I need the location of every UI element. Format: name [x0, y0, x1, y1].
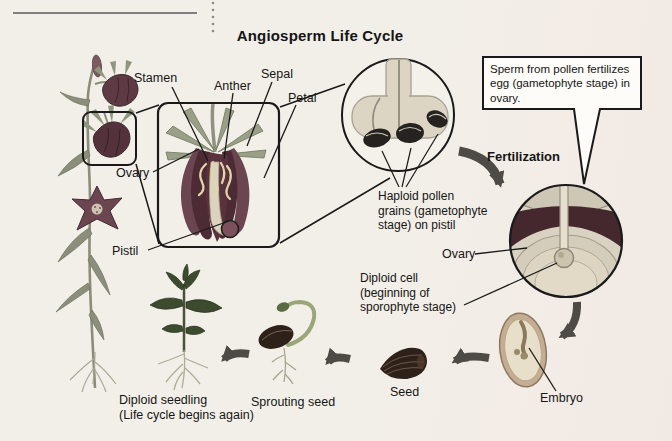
arrow-seed-to-sprout [328, 358, 350, 362]
label-sepal: Sepal [261, 67, 293, 82]
seedling-line-1: Diploid seedling [119, 393, 254, 408]
callout-line-2: egg (gametophyte stage) in [490, 76, 636, 90]
pollen-tube-descending [560, 184, 568, 254]
label-diploid-seedling: Diploid seedling (Life cycle begins agai… [119, 393, 254, 424]
plant-flower-open [72, 186, 122, 230]
plant-illustration [56, 55, 138, 392]
arrow-sprout-to-seedling [224, 353, 249, 359]
label-pistil: Pistil [112, 244, 138, 259]
seedling-illustration [150, 264, 222, 390]
diploid-cell [555, 249, 574, 268]
callout-line-3: ovary. [490, 91, 636, 105]
haploid-line-1: Haploid pollen [378, 189, 487, 204]
diploid-cell-line-3: sporophyte stage) [360, 300, 456, 315]
embryo-illustration [495, 310, 551, 390]
pollen-stigma-circle [342, 59, 454, 171]
arrow-embryo-to-seed [455, 357, 489, 361]
fertilization-circle [505, 183, 627, 319]
label-haploid-pollen: Haploid pollen grains (gametophyte stage… [378, 189, 487, 233]
label-ovary: Ovary [116, 166, 149, 181]
seedling-line-2: (Life cycle begins again) [119, 408, 254, 423]
diploid-cell-line-2: (beginning of [360, 286, 456, 301]
haploid-line-2: grains (gametophyte [378, 204, 487, 219]
callout-line-1: Sperm from pollen fertilizes [490, 62, 636, 76]
label-petal: Petal [288, 91, 317, 106]
magnified-flower [166, 104, 266, 242]
page-rule [13, 2, 214, 33]
callout-text: Sperm from pollen fertilizes egg (gameto… [490, 62, 636, 105]
label-sprouting-seed: Sprouting seed [251, 395, 335, 410]
seed-illustration [380, 348, 427, 379]
label-diploid-cell: Diploid cell (beginning of sporophyte st… [360, 271, 456, 315]
label-anther: Anther [214, 79, 251, 94]
sprouting-seed-illustration [255, 301, 314, 384]
diagram-title: Angiosperm Life Cycle [224, 27, 416, 44]
label-fertilization: Fertilization [487, 149, 560, 165]
label-seed: Seed [390, 385, 419, 400]
haploid-line-3: stage) on pistil [378, 218, 487, 233]
label-stamen: Stamen [134, 71, 177, 86]
label-embryo: Embryo [540, 391, 583, 406]
label-ovary-fertilization: Ovary [442, 247, 475, 262]
arrow-to-embryo [562, 302, 577, 336]
diploid-cell-line-1: Diploid cell [360, 271, 456, 286]
diagram-canvas: Angiosperm Life Cycle Stamen Anther Sepa… [0, 0, 672, 441]
